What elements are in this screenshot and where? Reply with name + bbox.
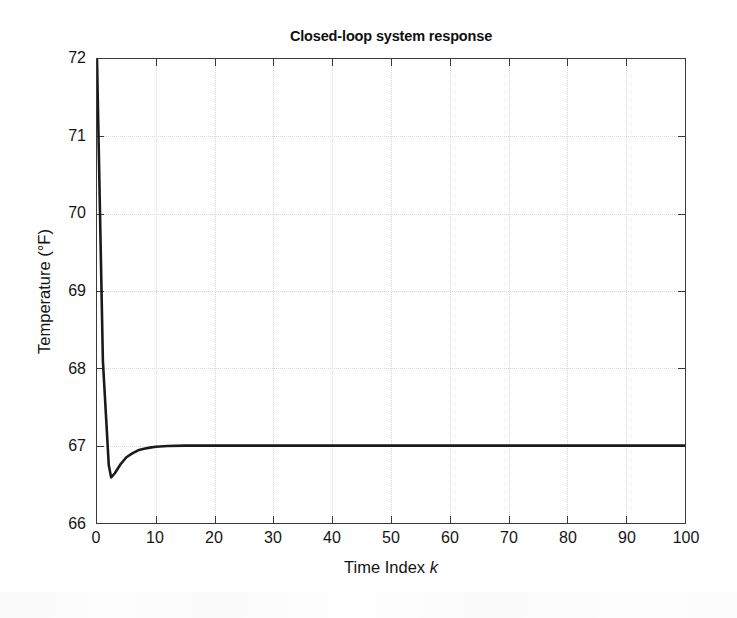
x-tick-label: 60: [441, 529, 459, 547]
y-tick-label: 72: [0, 49, 86, 67]
x-tick-label: 0: [92, 529, 101, 547]
x-axis-label-text: Time Index: [344, 558, 425, 576]
y-tick-label: 67: [0, 437, 86, 455]
x-axis-label: Time Index k: [96, 558, 686, 577]
x-tick-label: 90: [618, 529, 636, 547]
x-tick-label: 50: [382, 529, 400, 547]
x-tick-label: 70: [500, 529, 518, 547]
series-line-closed-loop-response: [97, 59, 685, 477]
y-tick-label: 71: [0, 127, 86, 145]
x-tick-label: 80: [559, 529, 577, 547]
x-tick-label: 30: [264, 529, 282, 547]
plot-area: [96, 58, 686, 524]
x-tick-label: 100: [673, 529, 700, 547]
response-curve: [97, 59, 685, 523]
figure-canvas: Closed-loop system response: [0, 0, 737, 618]
scan-artifact: [0, 592, 737, 618]
x-axis-label-variable: k: [430, 558, 438, 576]
y-axis-label: Temperature (°F): [35, 152, 54, 432]
x-tick-label: 40: [323, 529, 341, 547]
x-tick-label: 20: [205, 529, 223, 547]
x-tick-label: 10: [146, 529, 164, 547]
chart-title: Closed-loop system response: [96, 28, 686, 44]
y-tick-label: 66: [0, 515, 86, 533]
